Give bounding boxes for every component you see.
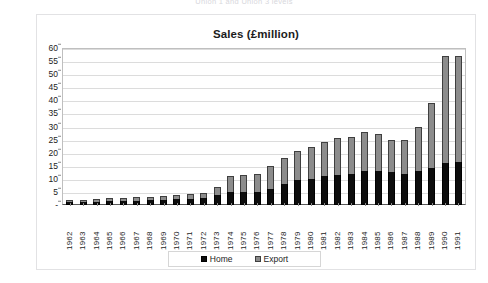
y-axis-tickmark	[58, 83, 61, 84]
y-axis-tickmark	[58, 135, 61, 136]
x-axis-tick: 1990	[438, 206, 451, 250]
bar-segment-home	[415, 171, 422, 205]
x-axis-tick-label: 1973	[213, 208, 221, 250]
stacked-bar	[428, 103, 435, 205]
x-axis-tick: 1980	[304, 206, 317, 250]
x-axis-tickmark	[217, 203, 218, 206]
bar-segment-export	[334, 138, 341, 175]
y-axis-tick-label: 15	[49, 162, 58, 171]
x-axis-tick-label: 1971	[186, 208, 194, 250]
bar-column	[251, 48, 264, 205]
x-axis-tick: 1967	[130, 206, 143, 250]
bar-segment-export	[214, 187, 221, 195]
y-axis-tickmark	[58, 70, 61, 71]
x-axis-tick-label: 1964	[93, 208, 101, 250]
stacked-bar	[240, 175, 247, 205]
y-axis-tickmark	[58, 188, 61, 189]
x-axis-tickmark	[190, 203, 191, 206]
x-axis: 1962196319641965196619671968196919701971…	[62, 206, 466, 250]
x-axis-tick-label: 1979	[294, 208, 302, 250]
x-axis-tick: 1975	[237, 206, 250, 250]
x-axis-tickmark	[351, 203, 352, 206]
bar-column	[318, 48, 331, 205]
bar-column	[117, 48, 130, 205]
y-axis: 60555045403530252015105-	[36, 48, 60, 205]
stacked-bar	[334, 138, 341, 205]
x-axis-tick-label: 1991	[454, 208, 462, 250]
x-axis-tick: 1971	[184, 206, 197, 250]
x-axis-tick: 1964	[90, 206, 103, 250]
legend-swatch-export-icon	[255, 256, 261, 262]
x-axis-tickmark	[365, 203, 366, 206]
x-axis-tick: 1974	[224, 206, 237, 250]
plot-area	[62, 48, 466, 205]
x-axis-tick: 1979	[291, 206, 304, 250]
bar-column	[143, 48, 156, 205]
bar-segment-export	[254, 174, 261, 192]
x-axis-tick-label: 1972	[200, 208, 208, 250]
stacked-bar	[442, 56, 449, 205]
x-axis-tick: 1978	[278, 206, 291, 250]
bar-column	[291, 48, 304, 205]
stacked-bar	[267, 166, 274, 205]
x-axis-tickmark	[418, 203, 419, 206]
bar-segment-home	[428, 168, 435, 205]
x-axis-tickmark	[150, 203, 151, 206]
x-axis-tick-label: 1965	[106, 208, 114, 250]
y-axis-tick-label: 25	[49, 135, 58, 144]
x-axis-tickmark	[445, 203, 446, 206]
y-axis-tick-label: 10	[49, 175, 58, 184]
chart-screenshot: Union 1 and Union 3 levels Sales (£milli…	[0, 0, 488, 283]
y-axis-tickmark	[58, 44, 61, 45]
x-axis-tick: 1988	[412, 206, 425, 250]
y-axis-tick-label: 20	[49, 148, 58, 157]
x-axis-tick: 1977	[264, 206, 277, 250]
x-axis-tick: 1981	[318, 206, 331, 250]
x-axis-tick-label: 1968	[146, 208, 154, 250]
bar-segment-home	[308, 179, 315, 205]
y-axis-tick-label: 60	[49, 44, 58, 53]
legend-label-home: Home	[210, 254, 233, 264]
x-axis-tick-label: 1984	[361, 208, 369, 250]
bar-segment-export	[375, 134, 382, 171]
x-axis-tickmark	[432, 203, 433, 206]
stacked-bar	[415, 127, 422, 205]
x-axis-tick: 1972	[197, 206, 210, 250]
y-axis-tick-label: 30	[49, 122, 58, 131]
x-axis-tickmark	[177, 203, 178, 206]
y-axis-tickmark	[58, 122, 61, 123]
x-axis-tick-label: 1987	[401, 208, 409, 250]
y-axis-tick-label: -	[55, 201, 58, 210]
bar-segment-export	[240, 175, 247, 192]
x-axis-tick-label: 1988	[414, 208, 422, 250]
stacked-bar	[281, 158, 288, 205]
x-axis-tick-label: 1975	[240, 208, 248, 250]
bar-series-group	[62, 48, 466, 205]
legend-item-home: Home	[201, 254, 233, 264]
stacked-bar	[361, 132, 368, 205]
x-axis-tick: 1963	[76, 206, 89, 250]
x-axis-tick-label: 1969	[160, 208, 168, 250]
bar-segment-home	[281, 184, 288, 205]
y-axis-tick-label: 45	[49, 83, 58, 92]
y-axis-tickmark	[58, 148, 61, 149]
bar-column	[63, 48, 76, 205]
x-axis-tick-label: 1982	[334, 208, 342, 250]
bar-segment-export	[267, 166, 274, 190]
x-axis-tick: 1983	[345, 206, 358, 250]
y-axis-tickmark	[58, 57, 61, 58]
x-axis-tick: 1962	[63, 206, 76, 250]
x-axis-tick: 1984	[358, 206, 371, 250]
stacked-bar	[254, 174, 261, 205]
bar-segment-home	[321, 176, 328, 205]
bar-column	[197, 48, 210, 205]
bar-column	[224, 48, 237, 205]
x-axis-tick-label: 1981	[320, 208, 328, 250]
bar-column	[264, 48, 277, 205]
x-axis-tick: 1970	[170, 206, 183, 250]
bar-column	[425, 48, 438, 205]
bar-column	[90, 48, 103, 205]
bar-segment-home	[361, 171, 368, 205]
bar-column	[345, 48, 358, 205]
bar-column	[398, 48, 411, 205]
